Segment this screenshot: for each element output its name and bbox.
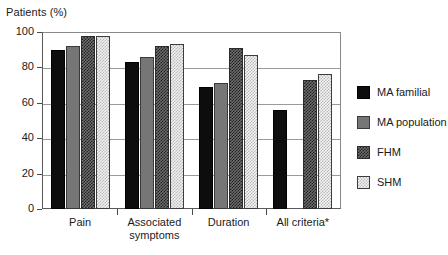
black-solid-swatch bbox=[357, 86, 370, 99]
bar-group bbox=[43, 33, 117, 209]
light-dotted-swatch bbox=[357, 176, 370, 189]
y-axis-tick-label: 80 bbox=[4, 61, 34, 72]
bar bbox=[170, 44, 184, 209]
bar bbox=[303, 80, 317, 209]
bar-chart-figure: Patients (%) 020406080100 PainAssociated… bbox=[0, 0, 448, 255]
bar bbox=[81, 36, 95, 209]
legend-item: MA familial bbox=[357, 84, 447, 100]
x-axis-tick bbox=[192, 209, 193, 215]
x-axis-tick bbox=[117, 209, 118, 215]
legend-item: SHM bbox=[357, 174, 447, 190]
bar bbox=[155, 46, 169, 209]
legend-item-label: MA familial bbox=[377, 87, 430, 98]
x-axis-tick bbox=[266, 209, 267, 215]
legend-item: FHM bbox=[357, 144, 447, 160]
bar bbox=[199, 87, 213, 209]
y-axis-tick-label: 60 bbox=[4, 97, 34, 108]
gray-solid-swatch bbox=[357, 116, 370, 129]
bar bbox=[140, 57, 154, 209]
bar bbox=[66, 46, 80, 209]
legend-item-label: FHM bbox=[377, 147, 401, 158]
bar bbox=[318, 74, 332, 209]
bar bbox=[51, 50, 65, 209]
bar-group bbox=[192, 33, 266, 209]
legend-item-label: SHM bbox=[377, 177, 401, 188]
dark-checkered-swatch bbox=[357, 146, 370, 159]
bar bbox=[244, 55, 258, 209]
legend-item: MA population bbox=[357, 114, 447, 130]
bar-groups bbox=[43, 33, 340, 209]
chart-legend: MA familialMA populationFHMSHM bbox=[357, 84, 447, 204]
y-axis-tick-label: 0 bbox=[4, 203, 34, 214]
y-axis-tick-label: 100 bbox=[4, 26, 34, 37]
x-axis-tick-label: All criteria* bbox=[252, 216, 354, 229]
bar-group bbox=[117, 33, 191, 209]
bar bbox=[125, 62, 139, 209]
y-axis-tick-label: 40 bbox=[4, 132, 34, 143]
bar bbox=[273, 110, 287, 209]
bar bbox=[229, 48, 243, 209]
bar bbox=[214, 83, 228, 209]
bar-group bbox=[266, 33, 340, 209]
y-axis-tick bbox=[37, 209, 42, 210]
legend-item-label: MA population bbox=[377, 117, 447, 128]
bar bbox=[96, 36, 110, 209]
y-axis-tick-label: 20 bbox=[4, 168, 34, 179]
